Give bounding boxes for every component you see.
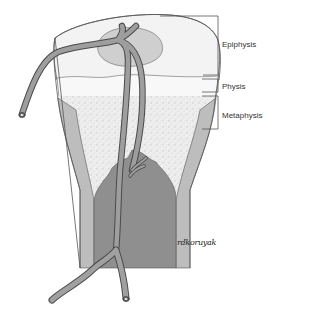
artist-signature: rdkoruyak (177, 238, 216, 247)
label-physis: Physis (222, 82, 246, 91)
physis-region (57, 75, 219, 98)
label-metaphysis: Metaphysis (222, 111, 262, 120)
label-epiphysis: Epiphysis (222, 40, 256, 49)
